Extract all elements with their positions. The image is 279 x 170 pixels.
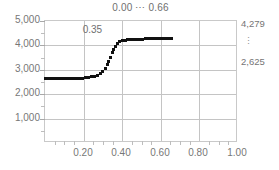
data-point: [106, 63, 109, 66]
x-tick-minor: [190, 141, 191, 145]
data-point: [170, 37, 173, 40]
x-tick-minor: [113, 141, 114, 145]
data-series-sigmoid: [45, 21, 236, 141]
x-tick-minor: [219, 141, 220, 145]
data-point: [107, 60, 110, 63]
x-tick-minor: [228, 141, 229, 145]
x-tick-minor: [151, 141, 152, 145]
x-tick-minor: [74, 141, 75, 145]
x-axis-tick-label: 0.40: [101, 147, 141, 158]
right-axis-annotation: 4,279 ⋮ 2,625: [241, 20, 279, 142]
data-point: [101, 70, 104, 73]
x-tick-minor: [142, 141, 143, 145]
y-axis-tick-label: 4,000: [0, 38, 40, 49]
x-tick-minor: [64, 141, 65, 145]
x-axis-tick-label: 0.60: [140, 147, 180, 158]
right-axis-ellipsis: ⋮: [244, 38, 253, 45]
x-axis-tick-label: 1.00: [217, 147, 257, 158]
x-tick-minor: [103, 141, 104, 145]
right-axis-min-label: 2,625: [241, 56, 265, 67]
y-axis-tick-label: 3,000: [0, 63, 40, 74]
data-point: [112, 48, 115, 51]
plot-area: 0.35: [44, 20, 237, 142]
x-tick-minor: [180, 141, 181, 145]
data-point: [111, 51, 114, 54]
point-annotation-035: 0.35: [83, 24, 102, 35]
right-axis-max-label: 4,279: [241, 18, 265, 29]
x-tick-minor: [55, 141, 56, 145]
x-axis-tick-label: 0.20: [63, 147, 103, 158]
data-point: [104, 67, 107, 70]
y-axis-tick-label: 1,000: [0, 112, 40, 123]
x-axis-labels: 0.200.400.600.801.00: [44, 147, 237, 161]
x-tick-minor: [209, 141, 210, 145]
chart-title: 0.00 ⋯ 0.66: [44, 2, 237, 13]
data-point: [109, 56, 112, 59]
x-tick-minor: [170, 141, 171, 145]
y-axis-labels: 1,0002,0003,0004,0005,000: [0, 20, 40, 142]
x-tick-minor: [132, 141, 133, 145]
y-axis-tick-label: 5,000: [0, 14, 40, 25]
chart-container: 0.00 ⋯ 0.66 1,0002,0003,0004,0005,000 0.…: [0, 0, 279, 170]
x-axis-tick-label: 0.80: [178, 147, 218, 158]
y-axis-tick-label: 2,000: [0, 87, 40, 98]
x-tick-minor: [93, 141, 94, 145]
